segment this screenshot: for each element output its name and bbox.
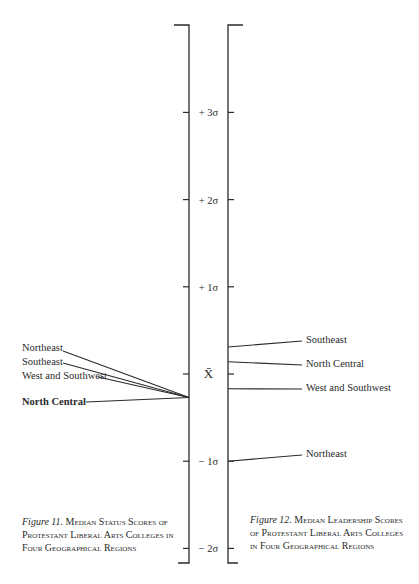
left-region-label: West and Southwest xyxy=(22,370,107,381)
left-region-label: North Central xyxy=(22,396,86,407)
figure-12-caption: Figure 12. Median Leadership Scores of P… xyxy=(250,513,410,552)
figure-12-number: Figure 12. xyxy=(250,514,292,525)
right-leader-line xyxy=(228,455,302,461)
tick-label: X̄ xyxy=(204,366,213,382)
left-leader-line xyxy=(98,377,189,398)
right-region-label: North Central xyxy=(306,358,364,369)
tick-label: + 1σ xyxy=(199,281,218,292)
right-leader-line xyxy=(228,341,302,347)
left-bracket xyxy=(174,25,189,563)
tick-label: − 1σ xyxy=(199,456,218,467)
tick-label: + 2σ xyxy=(199,194,218,205)
figure-11-caption: Figure 11. Median Status Scores of Prote… xyxy=(22,515,192,554)
right-leader-line xyxy=(228,362,302,365)
right-region-label: West and Southwest xyxy=(306,382,391,393)
right-region-label: Northeast xyxy=(306,448,347,459)
right-region-label: Southeast xyxy=(306,334,347,345)
left-region-label: Northeast xyxy=(22,342,63,353)
right-bracket xyxy=(228,25,243,563)
left-leader-line xyxy=(86,398,189,402)
tick-label: − 2σ xyxy=(199,543,218,554)
left-region-label: Southeast xyxy=(22,356,63,367)
figure-11-number: Figure 11. xyxy=(22,516,63,527)
tick-label: + 3σ xyxy=(199,107,218,118)
